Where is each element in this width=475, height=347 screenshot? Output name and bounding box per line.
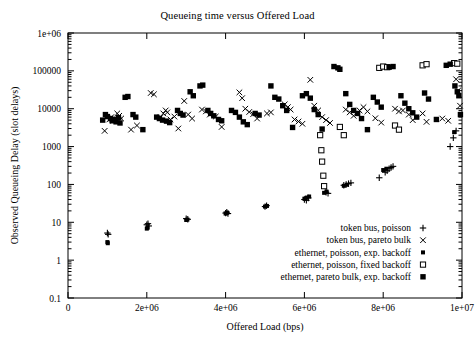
- marker-filled-square: [355, 111, 360, 116]
- marker-filled-square: [315, 112, 320, 117]
- marker-filled-square: [284, 108, 289, 113]
- chart-root: Queueing time versus Offered Load 0.1110…: [0, 0, 475, 347]
- marker-filled-square: [379, 104, 384, 109]
- marker-open-square: [337, 124, 342, 129]
- legend-label-2: ethernet, poisson, exp. backoff: [295, 248, 412, 258]
- marker-filled-square: [167, 120, 172, 125]
- marker-filled-square: [140, 127, 145, 132]
- marker-filled-square: [268, 83, 273, 88]
- marker-open-square: [318, 133, 323, 138]
- marker-open-square: [420, 262, 425, 267]
- x-tick-label: 8e+06: [371, 303, 395, 313]
- scatter-plot: 0.11101001000100001000001e+0602e+064e+06…: [0, 0, 475, 347]
- marker-small-filled-square: [225, 211, 229, 215]
- marker-filled-square: [245, 122, 250, 127]
- marker-filled-square: [414, 114, 419, 119]
- legend-marker-0: [420, 225, 426, 231]
- marker-filled-square: [402, 100, 407, 105]
- marker-open-square: [341, 133, 346, 138]
- marker-filled-square: [343, 91, 348, 96]
- marker-filled-square: [211, 113, 216, 118]
- marker-filled-square: [116, 115, 121, 120]
- marker-filled-square: [308, 95, 313, 100]
- y-tick-label: 0.1: [49, 294, 61, 304]
- marker-filled-square: [359, 116, 364, 121]
- marker-filled-square: [426, 96, 431, 101]
- legend-marker-2: [421, 250, 425, 254]
- marker-filled-square: [456, 93, 461, 98]
- marker-filled-square: [233, 110, 238, 115]
- marker-filled-square: [434, 117, 439, 122]
- marker-small-filled-square: [106, 241, 110, 245]
- marker-small-filled-square: [421, 250, 425, 254]
- marker-filled-square: [447, 61, 452, 66]
- legend-label-3: ethernet, poisson, fixed backoff: [291, 260, 412, 270]
- marker-filled-square: [200, 82, 205, 87]
- marker-open-square: [319, 148, 324, 153]
- marker-filled-square: [398, 93, 403, 98]
- marker-filled-square: [125, 94, 130, 99]
- marker-small-filled-square: [307, 194, 311, 198]
- marker-open-square: [396, 127, 401, 132]
- legend-marker-3: [420, 262, 425, 267]
- marker-open-square: [321, 173, 326, 178]
- marker-filled-square: [280, 103, 285, 108]
- series-0: [104, 128, 459, 238]
- marker-filled-square: [191, 93, 196, 98]
- marker-filled-square: [100, 117, 105, 122]
- y-tick-label: 1000: [42, 142, 61, 152]
- y-tick-label: 1e+06: [37, 29, 61, 39]
- x-axis-label: Offered Load (bps): [226, 321, 303, 333]
- marker-filled-square: [290, 125, 295, 130]
- marker-filled-square: [133, 114, 138, 119]
- marker-small-filled-square: [384, 167, 388, 171]
- marker-filled-square: [237, 114, 242, 119]
- series-4: [100, 61, 463, 132]
- legend-label-4: ethernet, pareto bulk, exp. backoff: [281, 272, 412, 282]
- marker-filled-square: [420, 274, 425, 279]
- x-tick-label: 6e+06: [292, 303, 316, 313]
- marker-filled-square: [117, 120, 122, 125]
- marker-filled-square: [319, 126, 324, 131]
- y-tick-label: 100: [47, 180, 62, 190]
- marker-small-filled-square: [185, 218, 189, 222]
- marker-filled-square: [458, 112, 463, 117]
- legend-marker-1: [420, 237, 426, 243]
- y-tick-label: 100000: [33, 66, 62, 76]
- y-tick-label: 10: [52, 218, 62, 228]
- y-tick-label: 10000: [37, 104, 61, 114]
- marker-filled-square: [390, 64, 395, 69]
- marker-filled-square: [337, 67, 342, 72]
- x-tick-label: 2e+06: [135, 303, 159, 313]
- legend-label-1: token bus, pareto bulk: [327, 235, 412, 245]
- y-axis-label: Observed Queueing Delay (slot delays): [9, 87, 21, 245]
- marker-filled-square: [347, 102, 352, 107]
- marker-open-square: [455, 61, 460, 66]
- plot-frame: [68, 33, 462, 298]
- marker-filled-square: [312, 107, 317, 112]
- legend-marker-4: [420, 274, 425, 279]
- marker-open-square: [320, 159, 325, 164]
- marker-filled-square: [452, 83, 457, 88]
- marker-small-filled-square: [324, 190, 328, 194]
- y-tick-label: 1: [56, 256, 61, 266]
- marker-filled-square: [180, 112, 185, 117]
- marker-filled-square: [371, 95, 376, 100]
- x-tick-label: 1e+07: [450, 303, 474, 313]
- marker-open-square: [322, 184, 327, 189]
- marker-filled-square: [365, 127, 370, 132]
- x-tick-label: 0: [66, 303, 71, 313]
- marker-filled-square: [375, 99, 380, 104]
- marker-open-square: [424, 62, 429, 67]
- marker-filled-square: [422, 90, 427, 95]
- marker-small-filled-square: [146, 226, 150, 230]
- marker-filled-square: [219, 118, 224, 123]
- marker-small-filled-square: [345, 183, 349, 187]
- marker-small-filled-square: [452, 130, 456, 134]
- marker-filled-square: [256, 112, 261, 117]
- x-tick-label: 4e+06: [214, 303, 238, 313]
- marker-small-filled-square: [265, 204, 269, 208]
- legend-label-0: token bus, poisson: [341, 223, 412, 233]
- marker-filled-square: [276, 96, 281, 101]
